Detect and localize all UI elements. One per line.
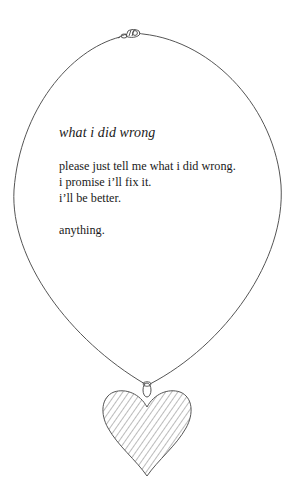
poem-line: anything. <box>59 222 259 238</box>
poem-line: i’ll be better. <box>59 190 259 206</box>
pendant-bail <box>143 383 151 397</box>
heart-pendant-icon <box>95 385 200 480</box>
clasp-icon <box>118 30 143 39</box>
poem-title: what i did wrong <box>59 124 259 142</box>
stanza-break <box>59 206 259 222</box>
poem-line: i promise i’ll fix it. <box>59 174 259 190</box>
poem-line: please just tell me what i did wrong. <box>59 158 259 174</box>
poem: what i did wrong please just tell me wha… <box>59 124 259 238</box>
necklace-illustration <box>0 0 287 497</box>
